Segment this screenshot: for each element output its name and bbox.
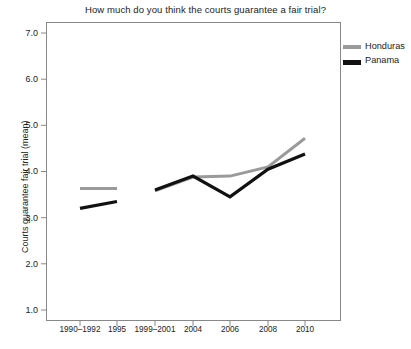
plot-frame: [47, 23, 341, 321]
series-line-panama: [80, 202, 117, 209]
plot-area: [0, 0, 411, 349]
chart-figure: How much do you think the courts guarant…: [0, 0, 411, 349]
series-lines: [80, 138, 305, 208]
y-axis-ticks: [41, 33, 47, 310]
x-axis-ticks: [80, 321, 305, 327]
